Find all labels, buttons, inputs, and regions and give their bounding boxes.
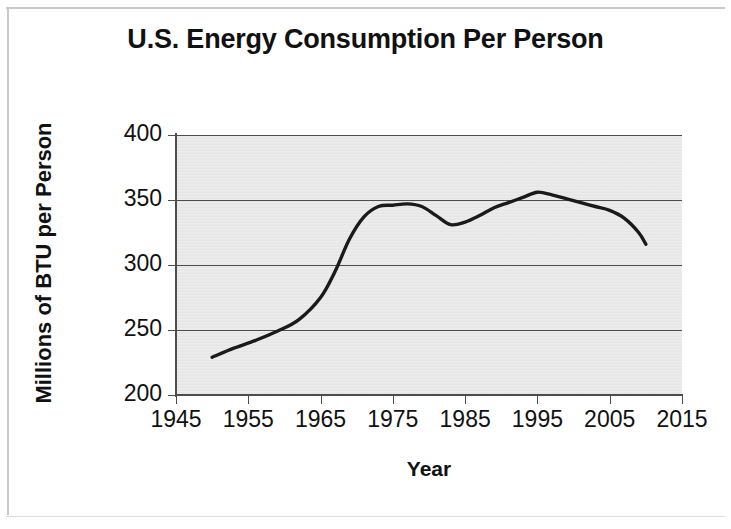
- x-tick-1965: [321, 396, 322, 404]
- y-tick-label-250: 250: [98, 315, 162, 342]
- y-tick-label-400: 400: [98, 120, 162, 147]
- x-tick-label-1965: 1965: [285, 406, 357, 433]
- y-axis-title: Millions of BTU per Person: [31, 113, 57, 413]
- chart-page: U.S. Energy Consumption Per Person Milli…: [0, 0, 731, 529]
- y-tick-label-300: 300: [98, 250, 162, 277]
- x-tick-label-1995: 1995: [501, 406, 573, 433]
- y-tick-250: [168, 330, 176, 331]
- x-tick-label-1985: 1985: [429, 406, 501, 433]
- y-tick-400: [168, 135, 176, 136]
- x-tick-label-1955: 1955: [212, 406, 284, 433]
- page-frame-bottom-edge: [6, 516, 725, 517]
- page-frame-top-edge: [6, 7, 725, 9]
- x-tick-2015: [682, 396, 683, 404]
- x-tick-label-1945: 1945: [140, 406, 212, 433]
- y-tick-label-350: 350: [98, 185, 162, 212]
- data-series-line: [212, 192, 646, 357]
- x-tick-2005: [610, 396, 611, 404]
- x-tick-1985: [465, 396, 466, 404]
- y-tick-350: [168, 200, 176, 201]
- data-series-layer: [176, 135, 682, 395]
- x-tick-1955: [248, 396, 249, 404]
- y-tick-200: [168, 395, 176, 396]
- x-tick-label-2015: 2015: [646, 406, 718, 433]
- page-frame-left-edge: [7, 7, 9, 515]
- x-tick-1975: [393, 396, 394, 404]
- x-tick-label-1975: 1975: [357, 406, 429, 433]
- x-tick-1945: [176, 396, 177, 404]
- y-tick-label-200: 200: [98, 380, 162, 407]
- x-axis-title: Year: [176, 457, 682, 481]
- chart-title: U.S. Energy Consumption Per Person: [0, 24, 731, 55]
- x-tick-1995: [537, 396, 538, 404]
- y-tick-300: [168, 265, 176, 266]
- x-tick-label-2005: 2005: [574, 406, 646, 433]
